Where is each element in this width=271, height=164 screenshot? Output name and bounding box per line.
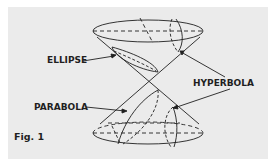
ellipse-section [112,47,158,72]
hyperbola-label: HYPERBOLA [193,78,254,88]
parabola-section [118,90,158,144]
ellipse-label: ELLIPSE [47,55,87,65]
upper-hyperbola-section [170,19,182,52]
lower-cone [93,122,203,144]
lower-hyperbola-section [165,107,177,147]
upper-cone [93,18,203,124]
figure-caption: Fig. 1 [14,131,44,142]
parabola-label: PARABOLA [34,102,88,112]
